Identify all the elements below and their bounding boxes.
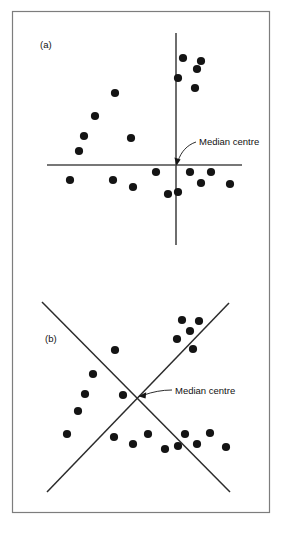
data-point — [110, 433, 118, 441]
data-point — [119, 391, 127, 399]
data-point — [74, 407, 82, 415]
data-point — [164, 190, 172, 198]
data-point — [161, 445, 169, 453]
data-point — [179, 54, 187, 62]
median-centre-figure: (a) — [0, 0, 283, 533]
data-point — [178, 316, 186, 324]
data-point — [81, 390, 89, 398]
panel-b-label: (b) — [45, 333, 57, 344]
data-point — [189, 345, 197, 353]
data-point — [144, 430, 152, 438]
data-point — [127, 134, 135, 142]
data-point — [193, 440, 201, 448]
data-point — [197, 179, 205, 187]
data-point — [111, 89, 119, 97]
data-point — [111, 346, 119, 354]
data-point — [75, 147, 83, 155]
data-point — [109, 176, 117, 184]
data-point — [174, 442, 182, 450]
data-point — [80, 132, 88, 140]
data-point — [206, 429, 214, 437]
figure-container: (a) — [0, 0, 283, 533]
data-point — [174, 188, 182, 196]
data-point — [63, 430, 71, 438]
data-point — [226, 180, 234, 188]
data-point — [186, 327, 194, 335]
data-point — [195, 317, 203, 325]
data-point — [222, 443, 230, 451]
data-point — [174, 74, 182, 82]
data-point — [129, 183, 137, 191]
data-point — [129, 440, 137, 448]
data-point — [207, 168, 215, 176]
data-point — [181, 430, 189, 438]
data-point — [173, 335, 181, 343]
data-point — [91, 112, 99, 120]
data-point — [193, 65, 201, 73]
data-point — [186, 168, 194, 176]
data-point — [89, 370, 97, 378]
data-point — [152, 168, 160, 176]
data-point — [197, 57, 205, 65]
data-point — [66, 176, 74, 184]
panel-a-median-centre-label: Median centre — [199, 136, 259, 147]
figure-frame-border — [13, 12, 270, 513]
data-point — [191, 84, 199, 92]
panel-b-median-centre-label: Median centre — [175, 385, 235, 396]
panel-a-label: (a) — [40, 39, 52, 50]
